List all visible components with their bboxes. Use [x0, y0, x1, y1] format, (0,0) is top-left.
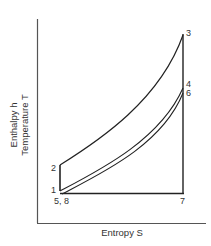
process-5-6 [62, 93, 183, 194]
x-axis-label: Entropy S [101, 227, 143, 238]
y-axis-label-enthalpy: Enthalpy h [8, 103, 19, 148]
cycle-diagram: 3 4 6 2 1 5, 8 7 Entropy S Enthalpy h Te… [0, 0, 211, 246]
point-label-1: 1 [51, 185, 56, 195]
point-label-7: 7 [180, 196, 185, 206]
point-label-3: 3 [186, 28, 191, 38]
point-label-6: 6 [186, 88, 191, 98]
y-axis-label-temperature: Temperature T [19, 94, 30, 156]
process-2-3 [60, 35, 183, 165]
point-label-5-8: 5, 8 [54, 196, 69, 206]
process-1-4 [60, 88, 183, 191]
point-label-2: 2 [51, 163, 56, 173]
